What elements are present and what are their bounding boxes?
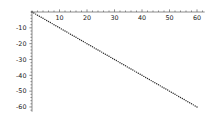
- series-dot: [169, 90, 170, 91]
- series-dot: [130, 68, 131, 69]
- series-dot: [110, 57, 111, 58]
- chart-container: 102030405060 -10-20-30-40-50-60: [0, 0, 207, 123]
- chart-plot-area: 102030405060 -10-20-30-40-50-60: [0, 0, 207, 123]
- series-dot: [95, 48, 96, 49]
- series-dot: [125, 65, 126, 66]
- series-dot: [37, 14, 38, 15]
- series-dot: [138, 72, 139, 73]
- series-dot: [79, 39, 80, 40]
- series-dot: [150, 80, 151, 81]
- series-dot: [132, 69, 133, 70]
- series-dot: [182, 98, 183, 99]
- series-dot: [160, 85, 161, 86]
- series-dot: [183, 99, 184, 100]
- series-dot: [92, 46, 93, 47]
- series-dot: [127, 66, 128, 67]
- series-dot: [185, 100, 186, 101]
- series-dot: [44, 19, 45, 20]
- series-dot: [48, 21, 49, 22]
- series-dot: [176, 95, 177, 96]
- series-dot: [94, 47, 95, 48]
- series-dot: [119, 62, 120, 63]
- series-dot: [174, 94, 175, 95]
- x-tick-label: 10: [55, 14, 63, 22]
- series-dot: [39, 15, 40, 16]
- series-dot: [187, 101, 188, 102]
- series-dot: [73, 36, 74, 37]
- series-dot: [75, 37, 76, 38]
- series-dot: [51, 23, 52, 24]
- series-dot: [191, 103, 192, 104]
- series-dot: [161, 86, 162, 87]
- series-dot: [149, 79, 150, 80]
- series-dot: [64, 30, 65, 31]
- series-dot: [178, 96, 179, 97]
- series-dot: [68, 32, 69, 33]
- series-dot: [101, 51, 102, 52]
- series-dot: [84, 42, 85, 43]
- series-dot: [180, 97, 181, 98]
- series-dot: [53, 24, 54, 25]
- series-dot: [42, 18, 43, 19]
- series-dot: [116, 60, 117, 61]
- series-dot: [154, 82, 155, 83]
- series-dot: [97, 49, 98, 50]
- series-dot: [139, 74, 140, 75]
- series-dot: [77, 38, 78, 39]
- series-dot: [147, 78, 148, 79]
- series-dot: [163, 87, 164, 88]
- series-dot: [72, 35, 73, 36]
- y-tick-label: -10: [16, 24, 26, 32]
- series-dot: [121, 63, 122, 64]
- series-dot: [165, 88, 166, 89]
- series-dot: [40, 17, 41, 18]
- series-dot: [134, 70, 135, 71]
- series-dot: [189, 102, 190, 103]
- y-axis-tick-labels: -10-20-30-40-50-60: [16, 24, 26, 111]
- series-dot: [86, 43, 87, 44]
- series-dot: [123, 64, 124, 65]
- series-dot: [62, 29, 63, 30]
- series-dot: [103, 52, 104, 53]
- series-dot: [33, 12, 34, 13]
- y-tick-label: -60: [16, 103, 26, 111]
- x-tick-label: 40: [138, 14, 146, 22]
- x-tick-label: 50: [165, 14, 173, 22]
- series-dot: [156, 83, 157, 84]
- series-dot: [88, 44, 89, 45]
- y-tick-label: -40: [16, 72, 26, 80]
- series-dot: [90, 45, 91, 46]
- series-dot: [117, 61, 118, 62]
- series-dot: [106, 55, 107, 56]
- series-dot: [143, 76, 144, 77]
- series-dot: [70, 33, 71, 34]
- series-dot: [171, 91, 172, 92]
- series-dot: [152, 81, 153, 82]
- series-dot: [50, 22, 51, 23]
- series-dot: [57, 26, 58, 27]
- series-dot: [35, 13, 36, 14]
- x-tick-label: 60: [193, 14, 201, 22]
- series-dot: [172, 93, 173, 94]
- series-dot: [83, 41, 84, 42]
- series-dot: [136, 71, 137, 72]
- y-tick-label: -30: [16, 56, 26, 64]
- series-dot: [59, 27, 60, 28]
- series-dot: [167, 89, 168, 90]
- y-tick-label: -50: [16, 87, 26, 95]
- y-tick-label: -20: [16, 40, 26, 48]
- data-series-line: [31, 11, 197, 107]
- series-dot: [158, 84, 159, 85]
- x-tick-label: 30: [110, 14, 118, 22]
- series-dot: [196, 106, 197, 107]
- series-dot: [105, 53, 106, 54]
- x-axis-tick-labels: 102030405060: [55, 14, 201, 22]
- series-dot: [81, 40, 82, 41]
- series-dot: [128, 67, 129, 68]
- series-dot: [108, 56, 109, 57]
- series-dot: [141, 75, 142, 76]
- x-tick-label: 20: [83, 14, 91, 22]
- series-dot: [145, 77, 146, 78]
- series-dot: [31, 11, 32, 12]
- series-dot: [99, 50, 100, 51]
